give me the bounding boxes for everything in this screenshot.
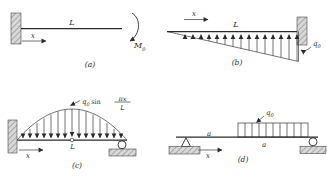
caption-d: (d) (238, 155, 249, 164)
midspan-length-label: L (69, 143, 75, 151)
dimension-a-right: a (262, 141, 266, 149)
ground-block (169, 147, 200, 155)
x-axis-label: x (192, 10, 196, 18)
uniform-load-block (238, 123, 308, 137)
length-label: L (68, 18, 74, 27)
load-intensity-label: q0 (313, 40, 321, 49)
x-axis-label: x (26, 152, 30, 160)
dimension-a-left: a (207, 130, 211, 138)
beam-loading-figure: L x M0 (a) L x (0, 0, 327, 179)
load-pointer-arrow (301, 47, 311, 51)
fixed-wall-support (11, 13, 21, 44)
midspan-marker (70, 138, 74, 142)
x-axis-label: x (206, 152, 210, 160)
length-label: L (232, 20, 238, 29)
figure-canvas: L x M0 (a) L x (0, 0, 327, 179)
caption-c: (c) (72, 161, 82, 170)
ground-block (300, 146, 326, 154)
fixed-wall-support (8, 120, 17, 153)
load-pointer-arrow (257, 116, 265, 123)
distributed-load-arrows (23, 109, 121, 138)
load-pointer-arrow (71, 101, 81, 106)
roller-support (118, 141, 126, 149)
panel-a-cantilever-end-moment: L x M0 (a) (11, 13, 146, 69)
fraction-denominator: L (119, 104, 124, 112)
ground-block (109, 149, 136, 156)
load-intensity-label: q0 (266, 109, 274, 118)
panel-c-sinusoidal-load: L q0sin πx L x (c) (8, 95, 136, 171)
x-axis-label: x (31, 32, 35, 40)
load-expression-label: q0sin (82, 98, 101, 107)
panel-d-partial-uniform-load: q0 a a x (d) (169, 109, 326, 164)
pin-support (182, 138, 191, 147)
panel-b-triangular-load: L x q0 (b) (167, 10, 321, 68)
moment-label: M0 (133, 41, 146, 52)
roller-support (309, 138, 317, 146)
fraction-numerator: πx (118, 95, 127, 103)
caption-b: (b) (232, 58, 243, 67)
moment-arrow (130, 13, 139, 41)
caption-a: (a) (85, 60, 95, 69)
